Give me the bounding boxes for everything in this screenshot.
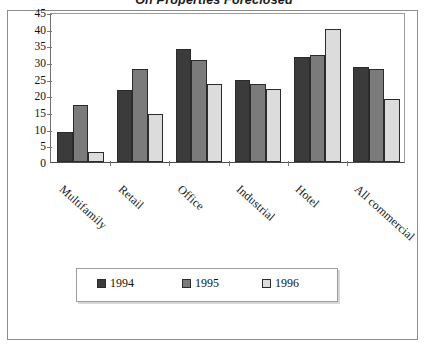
legend-label-1995: 1995 <box>195 278 219 289</box>
plot-wrapper: 454035302520151050 <box>18 13 408 183</box>
bar-1996-multifamily <box>88 152 104 162</box>
y-tick-label-15: 15 <box>18 108 46 118</box>
legend-item-1994[interactable]: 1994 <box>97 278 134 289</box>
y-tick-mark <box>47 64 52 65</box>
bars-layer <box>51 14 404 162</box>
bar-group-retail <box>117 14 164 162</box>
y-tick-mark <box>47 81 52 82</box>
bar-1996-retail <box>148 114 164 162</box>
chart-figure: On Properties Foreclosed 454035302520151… <box>0 0 428 349</box>
x-axis-label-hotel: Hotel <box>292 182 322 211</box>
legend-swatch-icon-1995 <box>182 279 191 288</box>
bar-1995-industrial <box>250 84 266 162</box>
bar-group-industrial <box>235 14 282 162</box>
chart-title: On Properties Foreclosed <box>0 0 428 6</box>
y-tick-label-40: 40 <box>18 25 46 35</box>
y-tick-label-10: 10 <box>18 125 46 135</box>
y-tick-label-5: 5 <box>18 141 46 151</box>
x-tick-mark <box>347 161 348 166</box>
y-tick-label-25: 25 <box>18 75 46 85</box>
legend-swatch-icon-1996 <box>262 279 271 288</box>
bar-1996-office <box>207 84 223 162</box>
bar-1995-all-commercial <box>369 69 385 162</box>
x-axis-label-retail: Retail <box>115 182 147 213</box>
bar-1994-office <box>176 49 192 162</box>
x-axis-category-labels: MultifamilyRetailOfficeIndustrialHotelAl… <box>18 182 418 262</box>
legend-label-1994: 1994 <box>110 278 134 289</box>
bar-1994-retail <box>117 90 133 162</box>
legend-item-1995[interactable]: 1995 <box>182 278 219 289</box>
x-axis-label-office: Office <box>174 182 207 214</box>
y-tick-label-0: 0 <box>18 158 46 168</box>
legend-label-1996: 1996 <box>275 278 299 289</box>
y-tick-label-20: 20 <box>18 91 46 101</box>
bar-1994-industrial <box>235 80 251 162</box>
y-tick-mark <box>47 47 52 48</box>
y-axis: 454035302520151050 <box>18 13 46 163</box>
x-axis-label-industrial: Industrial <box>233 182 278 225</box>
y-tick-mark <box>47 131 52 132</box>
bar-1995-retail <box>132 69 148 162</box>
y-tick-mark <box>47 14 52 15</box>
bar-1995-office <box>191 60 207 162</box>
legend-item-1996[interactable]: 1996 <box>262 278 299 289</box>
y-tick-mark <box>47 147 52 148</box>
y-tick-mark <box>47 114 52 115</box>
bar-group-multifamily <box>57 14 104 162</box>
bar-1996-hotel <box>325 29 341 162</box>
bar-1995-multifamily <box>73 105 89 162</box>
x-tick-mark <box>110 161 111 166</box>
y-tick-label-30: 30 <box>18 58 46 68</box>
bar-1995-hotel <box>310 55 326 162</box>
plot-area <box>50 13 405 163</box>
y-tick-mark <box>47 97 52 98</box>
x-axis-label-multifamily: Multifamily <box>56 182 110 233</box>
bar-group-office <box>176 14 223 162</box>
y-tick-mark <box>47 31 52 32</box>
x-tick-mark <box>229 161 230 166</box>
bar-1996-industrial <box>266 89 282 162</box>
y-tick-label-35: 35 <box>18 41 46 51</box>
x-tick-mark <box>169 161 170 166</box>
bar-1994-multifamily <box>57 132 73 162</box>
bar-1996-all-commercial <box>384 99 400 162</box>
bar-group-all-commercial <box>353 14 400 162</box>
bar-group-hotel <box>294 14 341 162</box>
y-tick-label-45: 45 <box>18 8 46 18</box>
legend-swatch-icon-1994 <box>97 279 106 288</box>
x-tick-mark <box>288 161 289 166</box>
x-axis-label-all-commercial: All commercial <box>351 182 418 244</box>
chart-legend: 199419951996 <box>76 268 338 302</box>
bar-1994-all-commercial <box>353 67 369 162</box>
bar-1994-hotel <box>294 57 310 162</box>
